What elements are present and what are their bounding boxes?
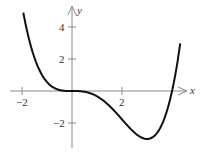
y-tick-label-4: 4 [59,21,65,33]
function-curve [23,13,180,139]
x-axis-label: x [189,84,195,96]
x-tick-label-neg2: −2 [16,96,28,108]
function-plot: −2 2 4 2 −2 x y [0,0,201,152]
y-tick-label-neg2: −2 [53,117,65,129]
y-axis-label: y [76,4,82,16]
x-tick-label-2: 2 [119,96,125,108]
y-tick-label-2: 2 [59,53,65,65]
